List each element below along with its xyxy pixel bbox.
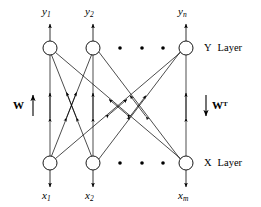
x-layer-word: Layer <box>218 157 242 168</box>
weight-backward-label: WT <box>212 100 228 111</box>
x-layer-letter: X <box>204 157 212 168</box>
label-y2: y2 <box>85 6 94 18</box>
input-arrows-bottom <box>50 170 186 187</box>
node-x1 <box>43 156 57 170</box>
node-x2 <box>86 156 100 170</box>
y-layer-letter: Y <box>204 42 212 53</box>
bottom-ellipsis-dots <box>118 161 165 165</box>
node-yn <box>179 41 193 55</box>
weight-forward-label: W <box>13 100 24 111</box>
label-xm: xm <box>178 190 188 202</box>
y-layer-word: Layer <box>218 42 242 53</box>
bottom-layer-nodes <box>43 156 193 170</box>
output-arrows-top <box>50 24 186 41</box>
figure-canvas: y1 y2 yn x1 x2 xm YLayer XLayer W WT <box>0 0 261 207</box>
interlayer-connections <box>50 52 186 159</box>
node-y1 <box>43 41 57 55</box>
top-layer-nodes <box>43 41 193 55</box>
label-y1: y1 <box>42 6 51 18</box>
x-layer-caption: XLayer <box>204 158 242 169</box>
node-y2 <box>86 41 100 55</box>
y-layer-caption: YLayer <box>204 43 242 54</box>
label-yn: yn <box>178 6 187 18</box>
label-x1: x1 <box>42 190 51 202</box>
label-x2: x2 <box>85 190 94 202</box>
top-ellipsis-dots <box>118 46 165 50</box>
node-xm <box>179 156 193 170</box>
